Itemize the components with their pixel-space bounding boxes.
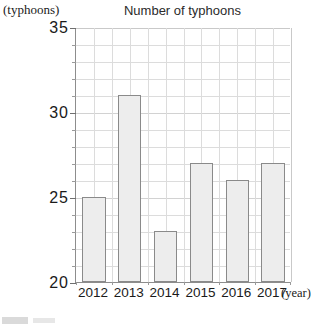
gridline-vertical-6 [184, 28, 185, 282]
y-axis-unit-label: (typhoons) [3, 2, 59, 18]
bar-2016 [226, 180, 249, 282]
gridline-vertical-2 [112, 28, 113, 282]
bar-2015 [190, 163, 213, 282]
bar-2013 [118, 95, 141, 282]
x-axis-tick-2017 [255, 282, 256, 285]
y-axis-tick-29 [72, 130, 76, 131]
y-axis-tick-21 [72, 266, 76, 267]
gridline-vertical-12 [291, 28, 292, 282]
chart-title: Number of typhoons [75, 3, 290, 18]
x-axis-label-2014: 2014 [150, 285, 180, 300]
y-axis-tick-24 [72, 215, 76, 216]
y-axis-tick-34 [72, 45, 76, 46]
typhoon-bar-chart: (typhoons) Number of typhoons 20253035 (… [0, 0, 323, 326]
y-axis-tick-27 [72, 164, 76, 165]
y-axis-tick-22 [72, 249, 76, 250]
x-axis-label-2017: 2017 [257, 285, 287, 300]
y-axis-tick-20 [70, 283, 76, 284]
plot-area: 20253035 [75, 28, 290, 283]
y-axis-label-30: 30 [49, 104, 69, 122]
y-axis-tick-32 [72, 79, 76, 80]
page-edge-artifact-secondary [33, 318, 55, 323]
x-axis-tick-2016 [219, 282, 220, 285]
y-axis-tick-33 [72, 62, 76, 63]
x-axis-tick-end [290, 282, 291, 285]
x-axis-label-2013: 2013 [114, 285, 144, 300]
y-axis-tick-31 [72, 96, 76, 97]
bar-2012 [82, 197, 105, 282]
y-axis-label-35: 35 [49, 19, 69, 37]
y-axis-label-20: 20 [49, 274, 69, 292]
y-axis-tick-23 [72, 232, 76, 233]
plot-inner [76, 28, 290, 282]
bar-2017 [261, 163, 284, 282]
y-axis-label-25: 25 [49, 189, 69, 207]
bar-2014 [154, 231, 177, 282]
y-axis-tick-35 [70, 28, 76, 29]
y-axis-tick-25 [70, 198, 76, 199]
y-axis-tick-28 [72, 147, 76, 148]
page-edge-artifact [2, 317, 28, 324]
y-axis-tick-30 [70, 113, 76, 114]
gridline-vertical-4 [148, 28, 149, 282]
gridline-vertical-10 [255, 28, 256, 282]
x-axis-label-2012: 2012 [78, 285, 108, 300]
gridline-vertical-8 [219, 28, 220, 282]
x-axis-label-2016: 2016 [221, 285, 251, 300]
y-axis-tick-26 [72, 181, 76, 182]
x-axis-label-2015: 2015 [185, 285, 215, 300]
x-axis-tick-2012 [76, 282, 77, 285]
